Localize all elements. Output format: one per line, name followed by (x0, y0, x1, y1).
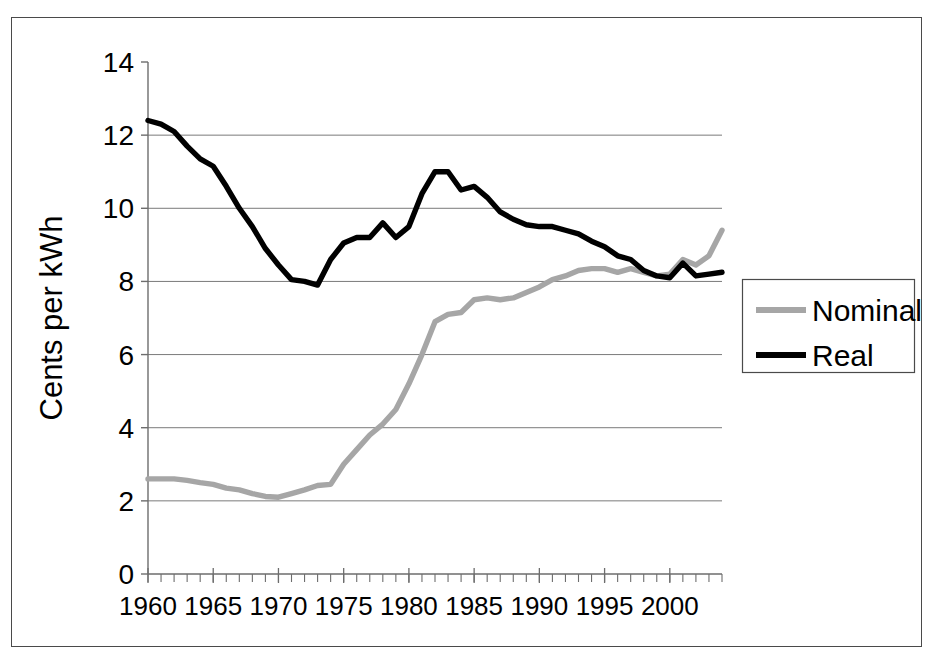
chart-figure: 02468101214 1960196519701975198019851990… (0, 0, 937, 667)
x-tick-label: 1965 (184, 591, 242, 621)
legend-label-nominal: Nominal (812, 294, 922, 327)
gridlines (148, 135, 722, 501)
x-tick-label: 1985 (445, 591, 503, 621)
data-series-group (148, 121, 722, 498)
x-tick-label: 1970 (250, 591, 308, 621)
y-tick-label: 8 (118, 266, 134, 297)
x-tick-label: 1975 (315, 591, 373, 621)
line-chart: 02468101214 1960196519701975198019851990… (0, 0, 937, 667)
x-axis-tick-labels: 196019651970197519801985199019952000 (119, 591, 699, 621)
chart-legend: NominalReal (743, 280, 923, 373)
y-axis-tick-labels: 02468101214 (103, 47, 134, 590)
y-tick-label: 12 (103, 120, 134, 151)
series-line-nominal (148, 230, 722, 497)
y-tick-label: 14 (103, 47, 134, 78)
y-tick-label: 0 (118, 559, 134, 590)
y-tick-label: 6 (118, 340, 134, 371)
x-tick-label: 2000 (641, 591, 699, 621)
x-axis-minor-ticks (148, 574, 722, 582)
y-axis-ticks (141, 62, 148, 574)
y-tick-label: 2 (118, 486, 134, 517)
x-tick-label: 1990 (510, 591, 568, 621)
y-tick-label: 10 (103, 193, 134, 224)
y-axis-title: Cents per kWh (34, 215, 69, 420)
series-line-real (148, 121, 722, 286)
y-tick-label: 4 (118, 413, 134, 444)
x-tick-label: 1960 (119, 591, 177, 621)
legend-label-real: Real (812, 339, 874, 372)
x-tick-label: 1995 (576, 591, 634, 621)
x-tick-label: 1980 (380, 591, 438, 621)
